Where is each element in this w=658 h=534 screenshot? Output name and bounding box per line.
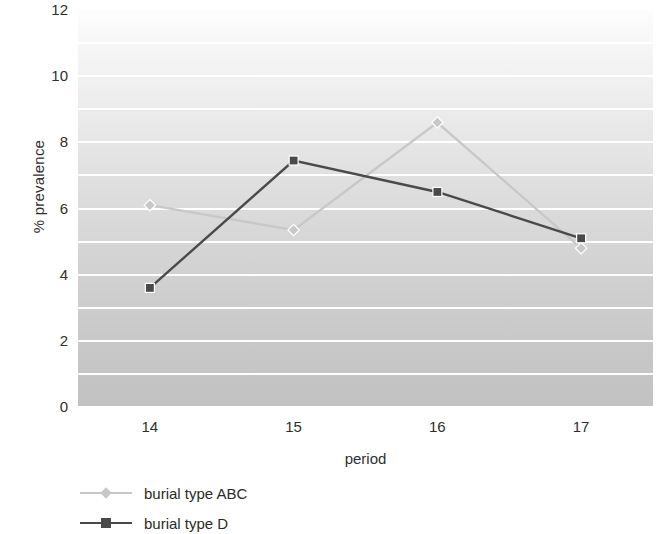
x-tick-label: 15: [264, 418, 324, 435]
y-tick-label: 6: [38, 201, 68, 216]
data-point-marker: [289, 156, 298, 165]
square-marker-icon: [101, 518, 111, 528]
legend-item[interactable]: burial type D: [80, 508, 247, 534]
legend-key-icon: [80, 483, 132, 503]
line-chart: % prevalence 121086420 14151617 period b…: [0, 0, 658, 534]
y-axis-tick-labels: 121086420: [36, 0, 68, 534]
data-point-marker: [433, 187, 442, 196]
data-point-marker: [577, 234, 586, 243]
series-2: [145, 156, 585, 292]
x-tick-label: 14: [120, 418, 180, 435]
data-point-marker: [145, 283, 154, 292]
y-tick-label: 10: [38, 68, 68, 83]
y-tick-label: 12: [38, 2, 68, 17]
diamond-marker-icon: [100, 487, 111, 498]
x-tick-label: 17: [551, 418, 611, 435]
legend-key-icon: [80, 513, 132, 533]
x-tick-label: 16: [407, 418, 467, 435]
legend-item[interactable]: burial type ABC: [80, 478, 247, 508]
y-tick-label: 4: [38, 267, 68, 282]
plot-area: [78, 10, 653, 407]
legend-label: burial type ABC: [132, 485, 247, 502]
data-point-marker: [144, 199, 155, 210]
x-axis-title: period: [78, 450, 653, 467]
series-line: [150, 161, 581, 288]
y-tick-label: 0: [38, 399, 68, 414]
series-layer: [78, 10, 653, 407]
y-tick-label: 2: [38, 333, 68, 348]
y-tick-label: 8: [38, 134, 68, 149]
legend-label: burial type D: [132, 515, 228, 532]
legend: burial type ABCburial type D: [80, 478, 247, 534]
